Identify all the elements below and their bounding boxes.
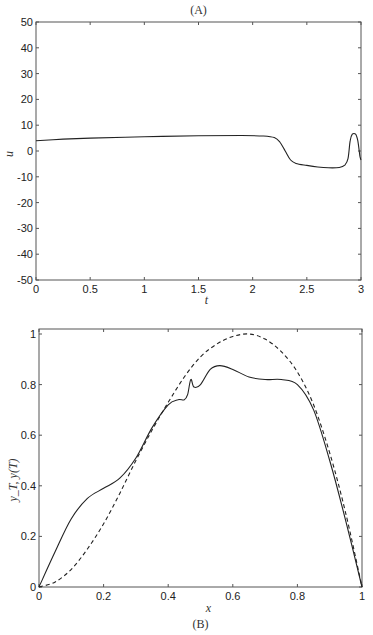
y-tick-label: 0: [30, 581, 36, 593]
series-solution-solid: [39, 366, 362, 587]
y-tick-label: 1: [30, 328, 36, 340]
y-tick-label: 0.2: [21, 530, 36, 542]
y-tick-label: -30: [17, 222, 33, 234]
y-tick-label: 20: [21, 93, 33, 105]
y-tick-label: -20: [17, 197, 33, 209]
y-tick-label: -10: [17, 171, 33, 183]
series-target-dashed: [39, 334, 362, 587]
y-tick-label: 10: [21, 119, 33, 131]
y-tick-label: 0.4: [21, 480, 36, 492]
panel-b: 00.20.40.60.8100.20.40.60.81(B)xy_T, y(T…: [6, 328, 365, 631]
y-tick-label: 0.6: [21, 429, 36, 441]
y-tick-label: 0: [27, 145, 33, 157]
y-tick-label: 40: [21, 42, 33, 54]
figure: 00.511.522.53-50-40-30-20-1001020304050(…: [0, 0, 373, 635]
series-solution-solid: [36, 133, 361, 167]
y-axis-label: u: [2, 151, 16, 157]
panel-a: 00.511.522.53-50-40-30-20-1001020304050(…: [2, 3, 364, 307]
y-tick-label: -50: [17, 274, 33, 286]
x-tick-label: 0.5: [83, 283, 98, 295]
plot-frame: [36, 22, 361, 280]
panel-label: (A): [190, 3, 207, 17]
x-tick-label: 0.6: [225, 590, 240, 602]
y-tick-label: 50: [21, 16, 33, 28]
x-tick-label: 0: [33, 283, 39, 295]
y-tick-label: -40: [17, 248, 33, 260]
x-tick-label: 3: [358, 283, 364, 295]
panel-label: (B): [193, 617, 209, 631]
x-tick-label: 0.2: [96, 590, 111, 602]
x-tick-label: 1: [141, 283, 147, 295]
x-tick-label: 0.8: [290, 590, 305, 602]
x-tick-label: 0.4: [161, 590, 176, 602]
y-axis-label: y_T, y(T): [6, 458, 20, 502]
x-tick-label: 0: [36, 590, 42, 602]
x-tick-label: 2: [250, 283, 256, 295]
y-tick-label: 30: [21, 68, 33, 80]
x-axis-label: x: [205, 601, 212, 615]
y-tick-label: 0.8: [21, 379, 36, 391]
x-tick-label: 1: [359, 590, 365, 602]
x-axis-label: t: [205, 293, 209, 307]
x-tick-label: 2.5: [299, 283, 314, 295]
